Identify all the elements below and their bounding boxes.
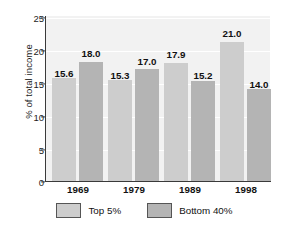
bar-value-1989-bottom40: 15.2 <box>193 70 212 81</box>
bar-value-1969-bottom40: 18.0 <box>81 48 100 59</box>
legend-entry-bottom40: Bottom 40% <box>147 203 232 218</box>
gridline-25 <box>46 18 270 19</box>
y-tick-label-15: 15 <box>4 79 44 90</box>
bar-value-1998-top5: 21.0 <box>222 28 241 39</box>
bar-value-1969-top5: 15.6 <box>54 68 73 79</box>
bar-1998-top5 <box>220 42 244 181</box>
x-axis-line <box>45 181 271 182</box>
x-tick-label-1989: 1989 <box>179 184 201 195</box>
x-tick-label-1979: 1979 <box>123 184 145 195</box>
bar-value-1998-bottom40: 14.0 <box>249 79 268 90</box>
bar-1979-bottom40 <box>135 69 159 181</box>
plot-area <box>46 16 270 181</box>
y-tick-label-20: 20 <box>4 46 44 57</box>
y-tick-label-0: 0 <box>4 177 44 188</box>
bar-1998-bottom40 <box>247 89 271 181</box>
y-axis-line <box>45 16 46 182</box>
x-tick-label-1969: 1969 <box>67 184 89 195</box>
legend-label-bottom40: Bottom 40% <box>179 205 232 216</box>
y-tick-label-25: 25 <box>4 13 44 24</box>
legend-label-top5: Top 5% <box>88 205 121 216</box>
x-tick-label-1998: 1998 <box>235 184 257 195</box>
bar-1969-top5 <box>52 78 76 181</box>
bar-1989-top5 <box>164 63 188 181</box>
bar-value-1989-top5: 17.9 <box>166 49 185 60</box>
bar-chart-figure: % of total income 25 20 15 10 5 <box>0 0 289 229</box>
bar-1989-bottom40 <box>191 81 215 181</box>
bar-1969-bottom40 <box>79 62 103 181</box>
chart-legend: Top 5% Bottom 40% <box>0 199 289 221</box>
y-tick-label-10: 10 <box>4 112 44 123</box>
bar-1979-top5 <box>108 80 132 181</box>
legend-swatch-bottom40-icon <box>147 203 172 218</box>
legend-swatch-top5-icon <box>56 203 81 218</box>
legend-entry-top5: Top 5% <box>56 203 121 218</box>
y-axis-ticks: 25 20 15 10 5 0 <box>0 0 44 229</box>
bar-value-1979-top5: 15.3 <box>110 70 129 81</box>
bar-value-1979-bottom40: 17.0 <box>137 56 156 67</box>
y-tick-label-5: 5 <box>4 145 44 156</box>
